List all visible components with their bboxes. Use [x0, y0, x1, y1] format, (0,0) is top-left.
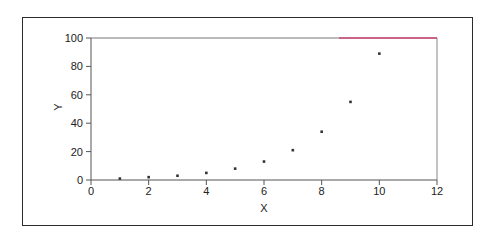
x-tick-label: 4 — [203, 185, 209, 197]
data-point — [292, 149, 295, 152]
data-point — [320, 130, 323, 133]
data-point — [147, 176, 150, 179]
x-tick-label: 6 — [261, 185, 267, 197]
plot-area: 020406080100024681012XY — [52, 32, 443, 214]
y-tick-label: 20 — [71, 146, 83, 158]
data-point — [263, 160, 266, 163]
y-tick-label: 80 — [71, 60, 83, 72]
x-tick-label: 2 — [146, 185, 152, 197]
data-point — [349, 101, 352, 104]
scatter-chart: 020406080100024681012XY — [0, 0, 484, 239]
x-axis-title: X — [260, 202, 268, 214]
y-tick-label: 0 — [77, 174, 83, 186]
data-point — [176, 174, 179, 177]
data-point — [378, 52, 381, 55]
data-point — [205, 172, 208, 175]
data-point — [234, 167, 237, 170]
x-tick-label: 10 — [373, 185, 385, 197]
y-tick-label: 100 — [65, 32, 83, 44]
x-tick-label: 8 — [319, 185, 325, 197]
data-point — [119, 177, 122, 180]
x-tick-label: 12 — [431, 185, 443, 197]
y-tick-label: 60 — [71, 89, 83, 101]
x-tick-label: 0 — [88, 185, 94, 197]
y-tick-label: 40 — [71, 117, 83, 129]
y-axis-title: Y — [52, 103, 64, 111]
